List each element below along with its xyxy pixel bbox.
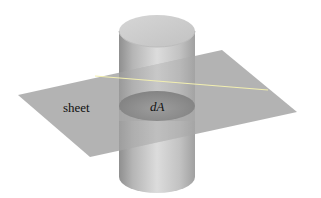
area-element-label: dA <box>150 99 165 114</box>
sheet-label: sheet <box>63 100 90 115</box>
pillbox-sheet-diagram: sheet dA <box>0 0 321 198</box>
